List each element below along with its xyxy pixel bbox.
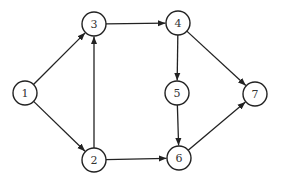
- edges-layer: [33, 23, 245, 160]
- node-label: 1: [22, 87, 29, 100]
- node-label: 3: [91, 18, 98, 31]
- edge-4-to-5: [177, 35, 178, 81]
- node-label: 7: [252, 88, 259, 101]
- graph-canvas: 1234567: [0, 0, 282, 182]
- node-2: 2: [82, 148, 106, 172]
- directed-graph: 1234567: [0, 0, 282, 182]
- edge-1-to-2: [34, 101, 85, 151]
- node-label: 5: [174, 87, 181, 100]
- node-7: 7: [243, 82, 267, 106]
- node-3: 3: [82, 12, 106, 36]
- edge-2-to-6: [106, 158, 167, 159]
- node-4: 4: [166, 11, 190, 35]
- edge-3-to-4: [106, 23, 166, 24]
- node-1: 1: [13, 81, 37, 105]
- edge-1-to-3: [33, 33, 85, 85]
- nodes-layer: 1234567: [13, 11, 267, 172]
- node-6: 6: [167, 146, 191, 170]
- node-label: 4: [175, 17, 182, 30]
- node-5: 5: [165, 81, 189, 105]
- edge-4-to-7: [187, 31, 246, 85]
- node-label: 6: [176, 152, 183, 165]
- node-label: 2: [91, 154, 98, 167]
- edge-5-to-6: [177, 105, 178, 146]
- edge-6-to-7: [188, 102, 245, 150]
